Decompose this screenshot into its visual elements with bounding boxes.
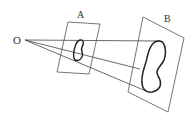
plane-b-label: B bbox=[164, 13, 171, 24]
ray-top bbox=[25, 40, 160, 41]
point-o-label: O bbox=[13, 34, 21, 46]
projection-rays bbox=[25, 40, 160, 91]
plane-a bbox=[57, 22, 100, 74]
ray-bottom bbox=[25, 40, 146, 91]
shape-on-plane-b bbox=[142, 41, 166, 92]
shape-on-plane-a bbox=[74, 40, 84, 61]
plane-b bbox=[128, 17, 184, 112]
plane-a-label: A bbox=[77, 9, 85, 20]
projection-diagram: O A B bbox=[0, 0, 195, 123]
